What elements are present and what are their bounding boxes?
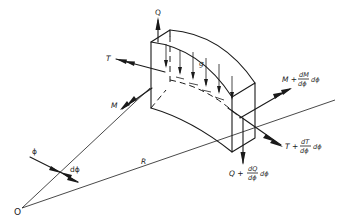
shear-right-label: Q + dQ dϕ dϕ (229, 165, 269, 182)
dphi-arrowhead-2 (67, 176, 79, 183)
angle-markers: ϕ dϕ R (30, 147, 146, 183)
phi-label: ϕ (32, 147, 37, 156)
beam-element (151, 30, 255, 152)
load-arrow (176, 50, 184, 79)
radius-label: R (141, 157, 146, 166)
load-label: g (199, 59, 204, 68)
shear-right-arrowhead (241, 152, 246, 165)
dphi-label: dϕ (70, 165, 80, 174)
svg-text:dϕ: dϕ (300, 147, 309, 155)
hidden-left-bottom (151, 90, 166, 108)
moment-left-arrowhead-2 (127, 96, 137, 105)
svg-text:dϕ: dϕ (248, 174, 257, 182)
moment-right-arrowhead-2 (273, 92, 284, 99)
load-arrow (215, 64, 224, 100)
shear-left-arrowhead (156, 17, 161, 30)
moment-right-arrowhead-1 (281, 88, 292, 95)
moment-right-label: M + dM dϕ dϕ (282, 71, 320, 88)
distributed-load: g (164, 44, 234, 100)
svg-text:T +: T + (285, 142, 298, 151)
moment-left-label: M (111, 101, 118, 110)
svg-text:dQ: dQ (248, 165, 257, 173)
load-arrow (164, 44, 168, 68)
phi-arrowhead (49, 166, 61, 173)
torque-right-arrowhead-2 (263, 134, 276, 142)
top-back-edge (170, 30, 255, 83)
bottom-front-edge (151, 108, 232, 152)
svg-text:dϕ: dϕ (313, 143, 322, 151)
svg-text:dϕ: dϕ (311, 76, 320, 84)
svg-text:M +: M + (282, 75, 297, 84)
svg-text:dϕ: dϕ (298, 80, 307, 88)
ray-upper (22, 88, 150, 208)
torque-right-label: T + dT dϕ dϕ (285, 138, 322, 155)
svg-text:dM: dM (299, 71, 309, 79)
hidden-edge (170, 80, 240, 118)
right-forces: Q + dQ dϕ dϕ M + dM dϕ dϕ T + dT dϕ dϕ (228, 71, 322, 182)
curved-beam-diagram: g Q T M Q + dQ dϕ dϕ M (0, 0, 339, 221)
left-forces: Q T M (106, 8, 165, 110)
ray-lower-R (22, 100, 335, 208)
origin-label: O (14, 207, 21, 217)
svg-text:dϕ: dϕ (260, 170, 269, 178)
svg-text:Q +: Q + (229, 169, 244, 178)
svg-text:dT: dT (301, 138, 310, 146)
shear-left-label: Q (155, 8, 161, 17)
torque-left-label: T (106, 54, 112, 63)
